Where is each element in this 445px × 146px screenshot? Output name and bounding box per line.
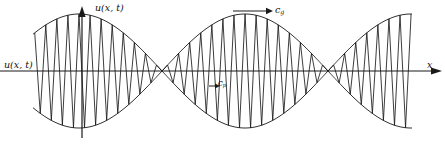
y-axis-label: u(x, t) xyxy=(95,3,124,13)
group-velocity-subscript: g xyxy=(280,8,284,15)
x-axis-arrowhead xyxy=(431,67,442,74)
x-axis-label: x xyxy=(427,60,432,70)
group-velocity-arrowhead xyxy=(266,8,273,14)
phase-velocity-label: cp xyxy=(218,79,226,89)
group-velocity-label: cg xyxy=(275,5,284,16)
wave-function-label: u(x, t) xyxy=(4,60,33,70)
phase-velocity-subscript: p xyxy=(223,82,227,88)
wave-packet-plot xyxy=(0,0,445,146)
wave-packet-figure: u(x, t) u(x, t) x cg cp xyxy=(0,0,445,146)
